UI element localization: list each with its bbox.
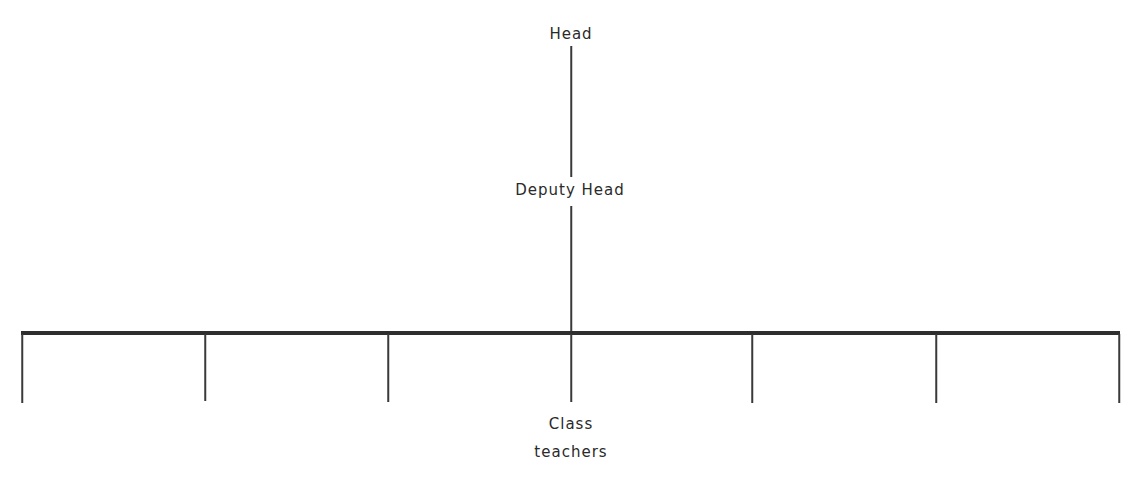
class-teacher-drop-6 [935,334,937,403]
class-teacher-drop-5 [751,334,753,403]
deputy-head-label: Deputy Head [515,181,625,199]
class-teacher-drop-4 [570,334,572,402]
class-teachers-label-line1: Class [549,415,593,433]
org-chart-diagram: Head Deputy Head Class teachers [0,0,1140,483]
class-teacher-drop-2 [204,334,206,401]
class-teachers-label-line2: teachers [534,443,607,461]
head-label: Head [549,25,592,43]
head-to-deputy-connector [570,46,572,177]
class-teacher-drop-3 [387,334,389,402]
deputy-to-bar-connector [570,206,572,333]
class-teacher-drop-1 [21,334,23,403]
class-teacher-drop-7 [1118,334,1120,403]
